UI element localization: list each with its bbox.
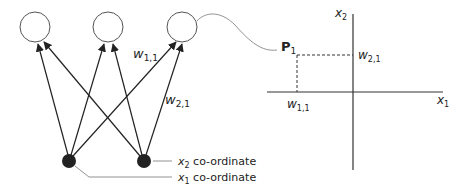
output-layer	[20, 12, 197, 42]
node-to-point-connector	[197, 14, 277, 50]
output-node-3	[167, 12, 197, 42]
input-node-1	[62, 154, 76, 168]
edge-in1-out1	[38, 44, 68, 155]
projection-lines	[297, 55, 353, 92]
edge-in1-out2	[71, 44, 104, 155]
y-tick-label-w21: w2,1	[358, 48, 381, 64]
x-tick-label-w11: w1,1	[287, 97, 310, 113]
output-node-2	[93, 12, 123, 42]
weight-label-w21: w2,1	[165, 92, 190, 109]
leader-x1	[75, 166, 172, 177]
edge-in2-out1	[44, 42, 140, 156]
input-label-x1: x1 co-ordinate	[177, 171, 256, 186]
y-axis-label: x2	[334, 6, 347, 22]
edge-in1-out3	[73, 42, 176, 156]
point-label-p1: P1	[281, 39, 296, 56]
x-axis-label: x1	[436, 93, 449, 109]
input-label-x2: x2 co-ordinate	[177, 155, 256, 170]
input-leader-lines	[75, 161, 172, 177]
input-node-2	[137, 154, 151, 168]
network-connections	[38, 42, 182, 156]
output-node-1	[20, 12, 50, 42]
kohonen-network-diagram: w1,1 w2,1 x2 co-ordinate x1 co-ordinate …	[0, 0, 465, 186]
weight-label-w11: w1,1	[133, 46, 158, 63]
weight-space-plot	[267, 14, 443, 170]
